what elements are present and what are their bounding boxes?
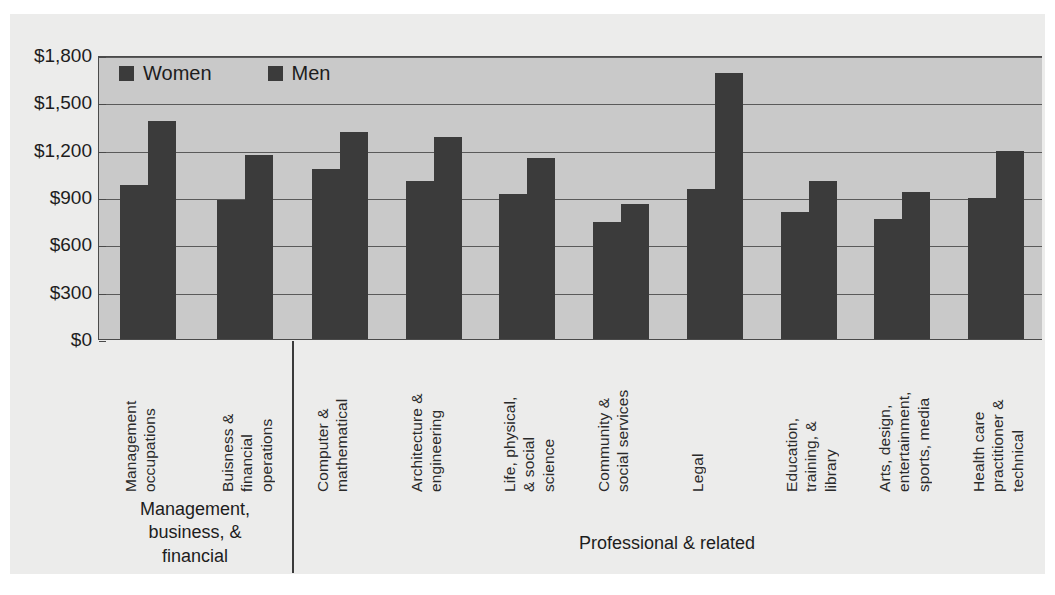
bar: [245, 155, 273, 340]
bar: [874, 219, 902, 340]
bar: [715, 73, 743, 340]
bar: [312, 169, 340, 340]
y-axis-tick-label: $900: [14, 187, 92, 209]
bar: [687, 189, 715, 340]
x-axis-category-label: Legal: [688, 344, 740, 492]
bar: [621, 204, 649, 340]
x-axis-category-label: Architecture & engineering: [407, 344, 459, 492]
x-axis-category-label: Buisness & financial operations: [218, 344, 270, 492]
legend-item-women: Women: [119, 63, 212, 83]
bar: [996, 151, 1024, 340]
bar: [434, 137, 462, 340]
bar: [902, 192, 930, 340]
legend-label-women: Women: [143, 63, 212, 83]
bar: [217, 200, 245, 340]
y-axis-tick-mark: [99, 341, 106, 342]
bar: [120, 185, 148, 340]
x-axis-line: [99, 339, 1042, 341]
x-axis-group-label: Professional & related: [292, 532, 1042, 555]
bar: [593, 222, 621, 340]
x-axis-category-label: Life, physical, & social science: [500, 344, 552, 492]
y-axis-tick-label: $300: [14, 282, 92, 304]
bar: [499, 194, 527, 340]
x-axis-group-labels: Management, business, & financialProfess…: [98, 498, 1042, 576]
bar: [406, 181, 434, 340]
y-axis-tick-label: $0: [14, 329, 92, 351]
bar: [148, 121, 176, 340]
y-axis-tick-label: $1,500: [14, 92, 92, 114]
y-axis-tick-label: $1,800: [14, 45, 92, 67]
legend: Women Men: [119, 63, 330, 83]
bar-series-container: [99, 57, 1042, 340]
bar: [340, 132, 368, 340]
x-axis-category-label: Arts, design, entertainment, sports, med…: [875, 344, 927, 492]
x-axis-category-label: Community & social services: [594, 344, 646, 492]
legend-swatch-icon: [268, 66, 283, 81]
x-axis-category-label: Management occupations: [121, 344, 173, 492]
bar: [809, 181, 837, 340]
bar: [781, 212, 809, 340]
legend-label-men: Men: [292, 63, 331, 83]
y-axis-labels: $1,800$1,500$1,200$900$600$300$0: [10, 56, 92, 340]
x-axis-category-label: Education, training, & library: [782, 344, 834, 492]
chart-page: $1,800$1,500$1,200$900$600$300$0 Women M…: [0, 0, 1055, 595]
plot-area: Women Men: [98, 56, 1042, 340]
x-axis-category-label: Health care practitioner & technical: [969, 344, 1021, 492]
legend-swatch-icon: [119, 66, 134, 81]
y-axis-tick-label: $1,200: [14, 140, 92, 162]
x-axis-category-label: Computer & mathematical: [313, 344, 365, 492]
x-axis-group-label: Management, business, & financial: [98, 498, 292, 568]
legend-item-men: Men: [268, 63, 331, 83]
chart-frame: $1,800$1,500$1,200$900$600$300$0 Women M…: [10, 14, 1045, 574]
bar: [968, 198, 996, 340]
x-axis-category-labels: Management occupationsBuisness & financi…: [98, 344, 1042, 494]
bar: [527, 158, 555, 340]
y-axis-tick-label: $600: [14, 234, 92, 256]
